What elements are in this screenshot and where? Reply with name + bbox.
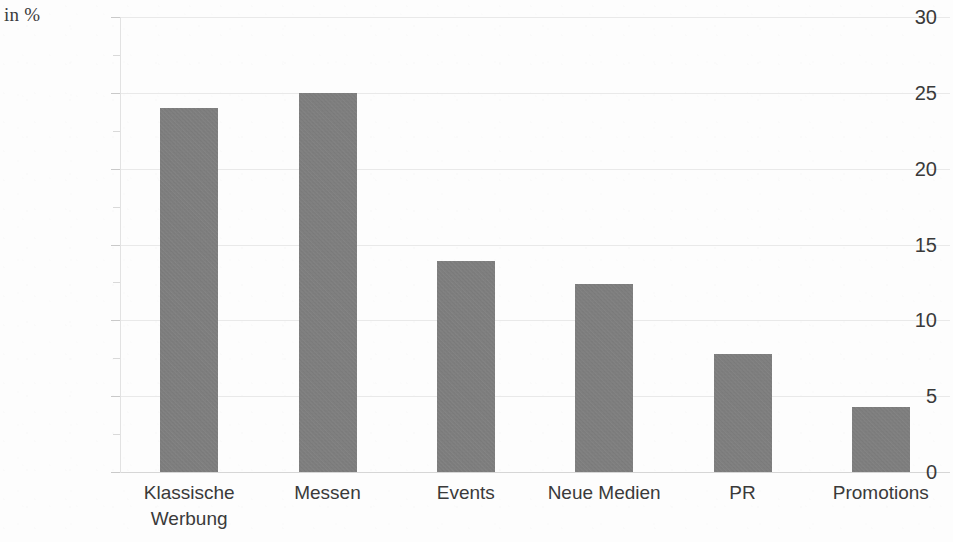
y-axis-minor-tick-mark bbox=[113, 131, 120, 132]
bar bbox=[714, 354, 772, 472]
x-axis-tick-label-line: Events bbox=[397, 480, 535, 506]
x-axis-tick-label-line: Messen bbox=[258, 480, 396, 506]
x-axis-tick-label: Events bbox=[397, 480, 535, 506]
x-axis-tick-label: Promotions bbox=[812, 480, 950, 506]
bar bbox=[299, 93, 357, 472]
gridline bbox=[120, 472, 950, 473]
y-axis-minor-tick-mark bbox=[113, 358, 120, 359]
x-axis-tick-label: Messen bbox=[258, 480, 396, 506]
plot-area bbox=[120, 17, 950, 472]
y-axis-tick-mark bbox=[111, 169, 120, 170]
y-axis-tick-mark bbox=[111, 93, 120, 94]
x-axis-tick-label: Neue Medien bbox=[535, 480, 673, 506]
x-axis-tick-label-line: Werbung bbox=[120, 506, 258, 532]
y-axis-tick-mark bbox=[111, 320, 120, 321]
bar bbox=[575, 284, 633, 472]
x-axis-tick-label-line: Neue Medien bbox=[535, 480, 673, 506]
bar bbox=[852, 407, 910, 472]
y-axis-tick-mark bbox=[111, 17, 120, 18]
y-axis-tick-mark bbox=[111, 245, 120, 246]
x-axis-tick-labels: KlassischeWerbungMessenEventsNeue Medien… bbox=[120, 480, 950, 540]
y-axis-minor-tick-mark bbox=[113, 207, 120, 208]
y-axis-minor-tick-mark bbox=[113, 434, 120, 435]
y-axis-tick-mark bbox=[111, 472, 120, 473]
y-axis-minor-tick-mark bbox=[113, 282, 120, 283]
bar-chart-figure: in % 051015202530 KlassischeWerbungMesse… bbox=[0, 0, 953, 542]
bar bbox=[437, 261, 495, 472]
y-axis-unit-label: in % bbox=[4, 4, 40, 26]
y-axis-minor-tick-mark bbox=[113, 55, 120, 56]
x-axis-tick-label: PR bbox=[673, 480, 811, 506]
x-axis-tick-label-line: Klassische bbox=[120, 480, 258, 506]
bar bbox=[160, 108, 218, 472]
y-axis-tick-mark bbox=[111, 396, 120, 397]
x-axis-tick-label-line: Promotions bbox=[812, 480, 950, 506]
x-axis-tick-label-line: PR bbox=[673, 480, 811, 506]
x-axis-tick-label: KlassischeWerbung bbox=[120, 480, 258, 532]
